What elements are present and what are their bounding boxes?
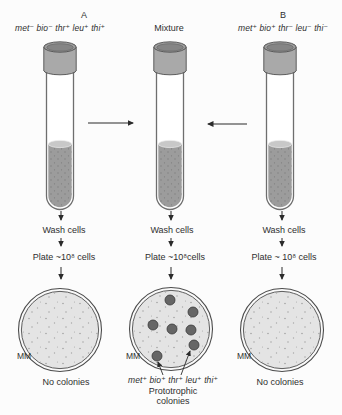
- prototrophic-genotype: met⁺ bio⁺ thr⁺ leu⁺ thi⁺: [128, 375, 218, 385]
- petri-dish-b: [241, 289, 324, 372]
- wash-cells-label-b: Wash cells: [262, 225, 305, 235]
- result-label-a: No colonies: [42, 377, 89, 387]
- strain-b-title: B: [280, 10, 286, 20]
- prototrophic-caption-line2: colonies: [149, 396, 198, 406]
- prototrophic-colony: [167, 324, 177, 334]
- prototrophic-caption: Prototrophic colonies: [149, 386, 198, 406]
- mixture-title: Mixture: [154, 23, 184, 33]
- prototrophic-colony: [165, 295, 175, 305]
- prototrophic-colony: [189, 340, 199, 350]
- plate-cells-label-mixture: Plate ~10⁸cells: [145, 252, 205, 262]
- strain-a-genotype: met⁻ bio⁻ thr⁺ leu⁺ thi⁺: [15, 23, 105, 33]
- wash-cells-label-mixture: Wash cells: [150, 225, 193, 235]
- prototrophic-colony: [188, 307, 198, 317]
- prototrophic-colony: [148, 320, 158, 330]
- strain-b-genotype: met⁺ bio⁺ thr⁻ leu⁻ thi⁻: [238, 23, 328, 33]
- test-tube-strain-a: [44, 42, 76, 210]
- strain-a-title: A: [81, 10, 87, 20]
- conjugation-experiment-figure: A met⁻ bio⁻ thr⁺ leu⁺ thi⁺ Mixture B met…: [0, 0, 342, 415]
- wash-cells-label-a: Wash cells: [42, 225, 85, 235]
- prototrophic-caption-line1: Prototrophic: [149, 386, 198, 396]
- result-label-b: No colonies: [256, 377, 303, 387]
- mm-label-mixture: MM: [126, 351, 140, 361]
- prototrophic-colony: [152, 351, 162, 361]
- mm-label-a: MM: [17, 351, 31, 361]
- prototrophic-colony: [186, 325, 196, 335]
- test-tube-strain-b: [264, 42, 296, 210]
- figure-graphics: [0, 0, 342, 415]
- mm-label-b: MM: [237, 351, 251, 361]
- test-tube-mixture: [154, 42, 186, 210]
- plate-cells-label-b: Plate ~ 10⁸ cells: [251, 252, 316, 262]
- plate-cells-label-a: Plate ~10⁸ cells: [33, 252, 96, 262]
